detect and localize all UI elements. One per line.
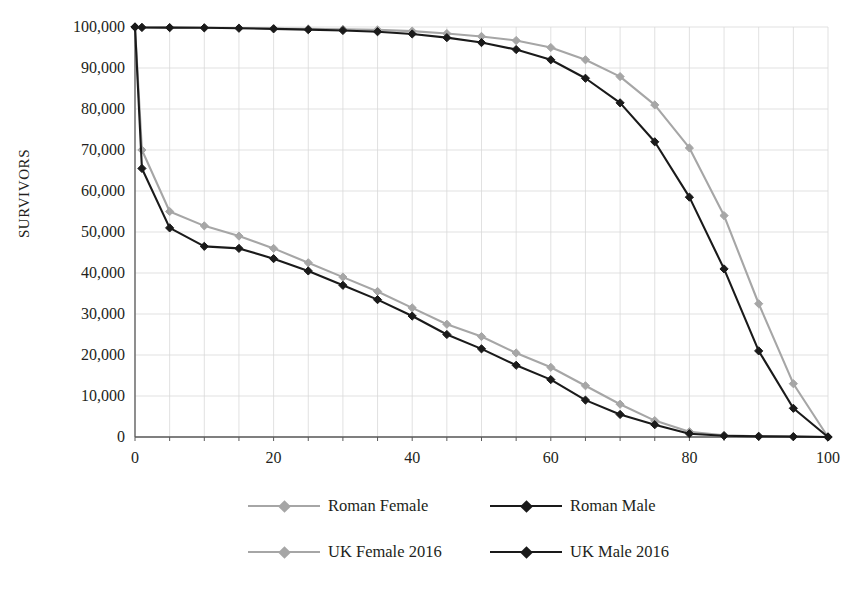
data-point-marker: [304, 267, 312, 275]
data-point-marker: [339, 273, 347, 281]
survivorship-chart: SURVIVORS 010,00020,00030,00040,00050,00…: [0, 0, 861, 597]
data-point-marker: [166, 207, 174, 215]
data-point-marker: [408, 304, 416, 312]
legend-label: UK Male 2016: [570, 542, 669, 562]
data-point-marker: [408, 312, 416, 320]
data-point-marker: [339, 281, 347, 289]
data-point-marker: [720, 432, 728, 440]
legend-label: UK Female 2016: [328, 542, 442, 562]
chart-legend: Roman FemaleRoman MaleUK Female 2016UK M…: [248, 496, 718, 562]
data-point-marker: [443, 320, 451, 328]
data-point-marker: [512, 36, 520, 44]
data-point-marker: [443, 330, 451, 338]
data-point-marker: [166, 224, 174, 232]
data-point-marker: [720, 212, 728, 220]
legend-label: Roman Male: [570, 496, 656, 516]
data-point-marker: [373, 287, 381, 295]
legend-item-uk-female-2016[interactable]: UK Female 2016: [248, 542, 476, 562]
legend-item-roman-female[interactable]: Roman Female: [248, 496, 476, 516]
data-point-marker: [755, 432, 763, 440]
legend-item-uk-male-2016[interactable]: UK Male 2016: [490, 542, 718, 562]
data-point-marker: [477, 345, 485, 353]
data-point-marker: [270, 25, 278, 33]
legend-swatch-icon: [248, 545, 320, 559]
legend-item-roman-male[interactable]: Roman Male: [490, 496, 718, 516]
data-point-marker: [477, 38, 485, 46]
legend-swatch-icon: [490, 545, 562, 559]
data-point-marker: [477, 332, 485, 340]
legend-swatch-icon: [248, 499, 320, 513]
data-point-marker: [616, 400, 624, 408]
data-point-marker: [131, 23, 139, 31]
data-point-marker: [547, 43, 555, 51]
data-point-marker: [512, 45, 520, 53]
legend-diamond-marker-icon: [520, 546, 533, 559]
legend-swatch-icon: [490, 499, 562, 513]
data-point-marker: [200, 242, 208, 250]
data-point-marker: [235, 244, 243, 252]
data-point-marker: [581, 382, 589, 390]
legend-diamond-marker-icon: [278, 546, 291, 559]
data-point-marker: [789, 433, 797, 441]
data-point-marker: [720, 265, 728, 273]
data-point-marker: [616, 410, 624, 418]
data-point-marker: [547, 363, 555, 371]
data-point-marker: [270, 255, 278, 263]
data-point-marker: [200, 222, 208, 230]
legend-label: Roman Female: [328, 496, 428, 516]
data-point-marker: [512, 361, 520, 369]
legend-diamond-marker-icon: [278, 500, 291, 513]
data-point-marker: [755, 300, 763, 308]
data-point-marker: [166, 24, 174, 32]
data-point-marker: [581, 56, 589, 64]
data-point-marker: [235, 24, 243, 32]
data-point-marker: [138, 164, 146, 172]
data-point-marker: [200, 24, 208, 32]
data-point-marker: [235, 232, 243, 240]
data-point-marker: [512, 349, 520, 357]
data-point-marker: [270, 244, 278, 252]
data-point-marker: [304, 259, 312, 267]
data-point-marker: [373, 296, 381, 304]
legend-diamond-marker-icon: [520, 500, 533, 513]
data-point-marker: [547, 56, 555, 64]
